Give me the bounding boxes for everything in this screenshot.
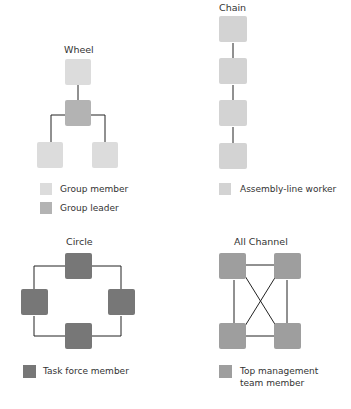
legend-label-task-force-member: Task force member <box>43 365 129 377</box>
chain-worker-4 <box>219 143 247 169</box>
wheel-member-top <box>65 59 91 85</box>
legend-label-assembly-line-worker: Assembly-line worker <box>240 183 336 195</box>
circle-member-bottom <box>65 323 92 349</box>
chain-worker-1 <box>219 16 247 42</box>
all-channel-title: All Channel <box>234 236 288 247</box>
chain-title: Chain <box>219 2 246 13</box>
wheel-member-left <box>37 142 63 168</box>
legend-label-line-1: Top management <box>240 365 318 377</box>
circle-member-top <box>65 253 92 279</box>
wheel-leader <box>65 100 91 126</box>
legend-label-line-2: team member <box>240 377 318 389</box>
legend-swatch-task-force-member <box>23 365 36 378</box>
wheel-member-right <box>92 142 118 168</box>
circle-member-right <box>108 289 135 315</box>
circle-title: Circle <box>66 236 93 247</box>
circle-member-left <box>21 289 48 315</box>
chain-worker-2 <box>219 58 247 84</box>
all-channel-member-br <box>274 323 301 349</box>
legend-swatch-assembly-line-worker <box>219 183 231 195</box>
legend-swatch-top-management <box>219 365 232 378</box>
all-channel-member-bl <box>219 323 246 349</box>
all-channel-member-tr <box>274 253 301 279</box>
wheel-title: Wheel <box>64 44 94 55</box>
legend-label-group-member: Group member <box>60 183 128 195</box>
chain-worker-3 <box>219 100 247 126</box>
legend-swatch-group-member <box>40 183 52 195</box>
legend-label-top-management: Top management team member <box>240 365 318 389</box>
legend-label-group-leader: Group leader <box>60 202 119 214</box>
legend-swatch-group-leader <box>40 202 52 214</box>
all-channel-member-tl <box>219 253 246 279</box>
